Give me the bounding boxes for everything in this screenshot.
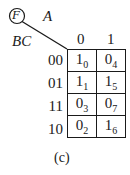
kmap-cell: 04 <box>97 50 126 72</box>
kmap-cell: 03 <box>68 94 97 116</box>
kmap-cell: 10 <box>68 50 97 72</box>
kmap-cell: 15 <box>97 72 126 94</box>
row-label-00: 00 <box>33 52 63 69</box>
column-header-0: 0 <box>77 31 85 48</box>
row-label-10: 10 <box>33 121 63 138</box>
kmap-cell: 02 <box>68 116 97 138</box>
karnaugh-map-grid: 10 04 11 15 03 07 02 16 <box>67 49 126 138</box>
kmap-row: 10 04 <box>68 50 126 72</box>
column-header-1: 1 <box>107 31 115 48</box>
kmap-row: 02 16 <box>68 116 126 138</box>
row-label-11: 11 <box>33 98 63 115</box>
column-variable-label: A <box>43 8 52 25</box>
kmap-row: 11 15 <box>68 72 126 94</box>
kmap-cell: 11 <box>68 72 97 94</box>
figure-caption: (c) <box>54 150 70 166</box>
function-label: F <box>12 7 20 23</box>
kmap-cell: 07 <box>97 94 126 116</box>
row-variable-label: BC <box>12 33 31 50</box>
kmap-cell: 16 <box>97 116 126 138</box>
row-label-01: 01 <box>33 75 63 92</box>
kmap-row: 03 07 <box>68 94 126 116</box>
